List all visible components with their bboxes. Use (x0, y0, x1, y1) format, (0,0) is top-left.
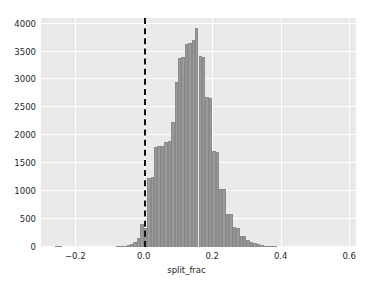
plot-area (41, 18, 356, 247)
x-axis-label: split_frac (0, 266, 373, 275)
gridline-vertical (281, 18, 282, 247)
x-axis-tick-label: 0.6 (342, 252, 356, 261)
zero-reference-line-icon (144, 18, 146, 247)
y-axis-tick-label: 1000 (14, 187, 36, 196)
histogram-figure: 05001000150020002500300035004000 −0.20.0… (0, 0, 373, 287)
y-axis-tick-label: 0 (31, 243, 36, 252)
y-axis-tick-label: 4000 (14, 20, 36, 29)
x-axis-tick-label: 0.4 (274, 252, 288, 261)
x-axis-tick-label: −0.2 (65, 252, 86, 261)
y-axis-tick-label: 3500 (14, 48, 36, 57)
x-axis-tick-label: 0.2 (205, 252, 219, 261)
histogram-bar (274, 246, 277, 247)
gridline-vertical (75, 18, 76, 247)
y-axis-tick-label: 2500 (14, 103, 36, 112)
gridline-vertical (349, 18, 350, 247)
y-axis-tick-label: 2000 (14, 131, 36, 140)
x-axis-tick-label: 0.0 (137, 252, 151, 261)
y-axis-tick-label: 3000 (14, 75, 36, 84)
histogram-bar (58, 246, 61, 247)
y-axis-tick-label: 1500 (14, 159, 36, 168)
gridline-horizontal (41, 23, 356, 24)
gridline-horizontal (41, 51, 356, 52)
y-axis-tick-label: 500 (20, 215, 36, 224)
